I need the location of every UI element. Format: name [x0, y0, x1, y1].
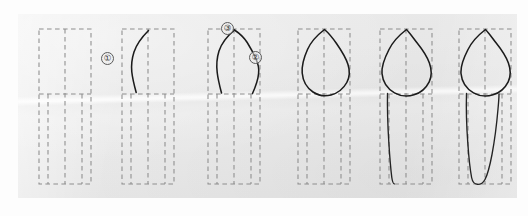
scanned-paper-panel: ① ② ③ [18, 14, 517, 198]
stroke-mesial-root-outline [387, 94, 394, 184]
stroke-mesial-outline [132, 31, 149, 93]
panel-3 [201, 14, 271, 198]
panel-2 [118, 14, 180, 198]
figure-stage: ① ② ③ [0, 0, 528, 216]
panel-5 [373, 14, 443, 198]
stroke-mesial-outline [217, 30, 235, 93]
step-marker-1: ① [101, 52, 114, 65]
crown-outline-closed [302, 30, 349, 96]
root-outline-complete [466, 94, 499, 185]
crown-outline-closed [461, 30, 510, 96]
panel-1 [35, 14, 95, 198]
crown-outline-closed [382, 30, 431, 96]
panel-4 [291, 14, 361, 198]
step-marker-2: ② [249, 51, 262, 64]
panel-6 [451, 14, 523, 198]
step-marker-3: ③ [221, 22, 234, 35]
